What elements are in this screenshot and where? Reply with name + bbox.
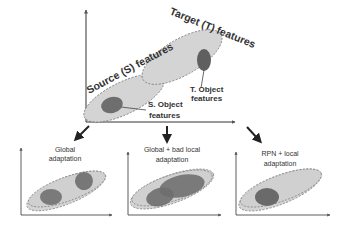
sub-panel-global-bad-local: Global + bad local adaptation bbox=[126, 146, 221, 217]
sub3-object-blob bbox=[255, 188, 279, 206]
sub1-source-object-blob bbox=[40, 189, 62, 205]
s-object-label-line2: features bbox=[149, 111, 181, 120]
domain-adaptation-diagram: Target (T) features Source (S) features … bbox=[0, 0, 343, 228]
sub1-target-ellipse bbox=[24, 164, 109, 215]
sub2-title-line1: Global + bad local bbox=[144, 146, 201, 153]
sub3-title-line1: RPN + local bbox=[261, 150, 299, 157]
sub-panel-rpn-local: RPN + local adaptation bbox=[234, 150, 330, 219]
t-object-label-line2: features bbox=[191, 94, 223, 103]
sub-panel-global: Global adaptation bbox=[21, 146, 112, 219]
sub1-title-line2: adaptation bbox=[49, 155, 82, 163]
main-panel: Target (T) features Source (S) features … bbox=[77, 5, 257, 132]
sub1-title-line1: Global bbox=[55, 146, 76, 153]
arrow-to-rpn-local bbox=[247, 127, 258, 139]
s-object-label-line1: S. Object bbox=[148, 100, 183, 109]
sub2-title-line2: adaptation bbox=[156, 156, 189, 164]
sub3-title-line2: adaptation bbox=[264, 160, 297, 168]
t-object-label-line1: T. Object bbox=[190, 85, 224, 94]
arrow-to-global bbox=[78, 126, 89, 137]
target-object-features-blob bbox=[197, 49, 211, 71]
